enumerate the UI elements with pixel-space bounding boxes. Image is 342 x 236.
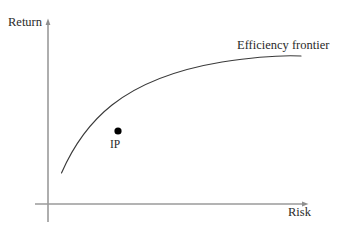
efficiency-frontier-diagram <box>0 0 342 236</box>
x-axis-label: Risk <box>288 206 311 219</box>
figure-background <box>0 0 342 236</box>
ip-point-label: IP <box>110 139 120 151</box>
y-axis-label: Return <box>8 16 42 29</box>
efficiency-frontier-label: Efficiency frontier <box>237 39 329 52</box>
ip-point-marker <box>114 127 121 134</box>
